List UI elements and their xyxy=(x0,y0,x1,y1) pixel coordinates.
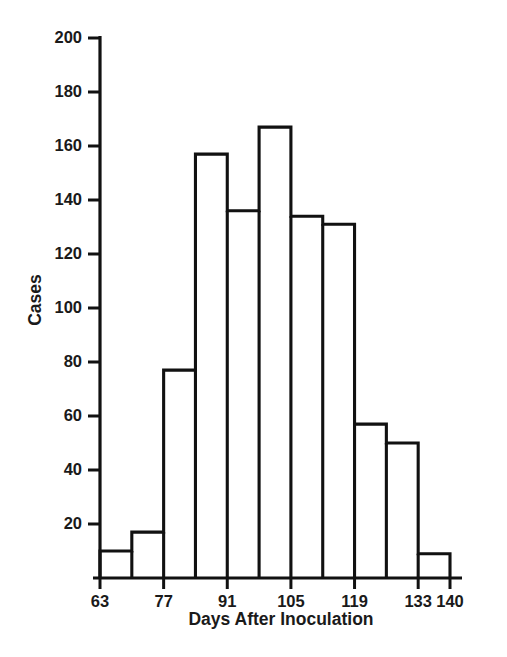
y-tick-label: 100 xyxy=(54,298,82,316)
x-axis-title: Days After Inoculation xyxy=(188,609,373,629)
y-axis-title: Cases xyxy=(25,274,45,326)
x-tick-label: 105 xyxy=(277,592,305,610)
x-tick-label: 91 xyxy=(218,592,236,610)
y-tick-label: 120 xyxy=(54,244,82,262)
axes-group xyxy=(93,36,462,578)
y-tick-label: 40 xyxy=(64,460,82,478)
y-tick-label: 160 xyxy=(54,136,82,154)
y-tick-label: 20 xyxy=(64,514,82,532)
y-axis-ticks: 20406080100120140160180200 xyxy=(54,28,100,532)
y-tick-label: 80 xyxy=(64,352,82,370)
histogram-figure: 20406080100120140160180200 6377911051191… xyxy=(0,0,507,657)
histogram-canvas: 20406080100120140160180200 6377911051191… xyxy=(0,0,507,657)
histogram-bars xyxy=(100,127,450,578)
y-tick-label: 140 xyxy=(54,190,82,208)
y-tick-label: 200 xyxy=(54,28,82,46)
x-axis-ticks: 637791105119133140 xyxy=(91,578,464,610)
x-tick-label: 140 xyxy=(436,592,464,610)
x-tick-label: 119 xyxy=(341,592,368,610)
y-tick-label: 60 xyxy=(64,406,82,424)
histogram-outline xyxy=(100,127,450,578)
x-tick-label: 133 xyxy=(404,592,432,610)
x-tick-label: 77 xyxy=(154,592,172,610)
x-tick-label: 63 xyxy=(91,592,109,610)
y-tick-label: 180 xyxy=(54,82,82,100)
